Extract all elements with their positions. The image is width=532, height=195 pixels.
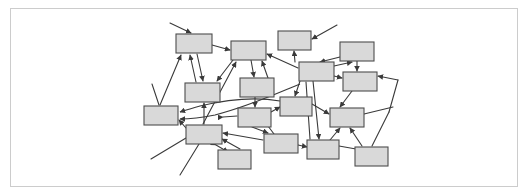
edge-stub-right-lower	[372, 112, 389, 146]
edge-n5-n6-bidirectional	[334, 76, 342, 78]
edge-n12-to-n11	[223, 116, 237, 117]
edge-n6-to-n13	[340, 91, 352, 107]
figure-root	[0, 0, 532, 195]
edge-n16-to-n13	[330, 128, 340, 140]
node-n9[interactable]	[144, 106, 178, 125]
edge-external-to-n1	[170, 23, 191, 33]
node-n17[interactable]	[355, 147, 388, 166]
edge-n16-to-n17	[339, 146, 356, 149]
edge-n12-to-n9	[179, 120, 186, 128]
edge-n15-to-n12-return	[222, 139, 240, 149]
edge-stub-n12-lower-left	[151, 138, 186, 159]
edge-stub-n12-lower	[180, 144, 199, 175]
node-n13[interactable]	[330, 108, 364, 127]
edge-n14-to-n12	[223, 133, 263, 140]
edge-n4-to-n5	[320, 57, 340, 62]
node-n6[interactable]	[343, 72, 377, 91]
edge-n10-to-n13	[312, 104, 329, 114]
edge-n8-to-n2	[262, 61, 268, 78]
edge-n1-to-n7	[197, 54, 203, 81]
node-n3[interactable]	[278, 31, 311, 50]
edge-n11-to-n10	[271, 107, 280, 112]
node-n11[interactable]	[238, 108, 271, 127]
edge-n5-to-n10	[295, 81, 300, 96]
edge-external-to-n6	[378, 76, 398, 80]
node-n8[interactable]	[240, 78, 274, 97]
node-n15[interactable]	[218, 150, 251, 169]
edge-n5-to-n16	[313, 81, 319, 139]
edge-n5-to-n2	[267, 54, 298, 68]
edge-n5-to-n3	[294, 51, 295, 62]
node-n10[interactable]	[280, 97, 312, 116]
node-n5[interactable]	[299, 62, 334, 81]
edge-n11-to-n14	[252, 127, 268, 133]
edge-n17-to-n13	[350, 128, 362, 146]
edge-n2-to-n8	[251, 60, 254, 77]
node-n14[interactable]	[264, 134, 298, 153]
edge-n2-to-n7	[217, 60, 233, 81]
edge-stub-n9-left	[152, 84, 159, 105]
node-n16[interactable]	[307, 140, 339, 159]
node-n7[interactable]	[185, 83, 220, 102]
edge-external-to-n3	[312, 25, 337, 39]
edge-n14-n16-bidirectional	[298, 145, 307, 147]
node-n4[interactable]	[340, 42, 374, 61]
node-n2[interactable]	[231, 41, 266, 60]
node-n1[interactable]	[176, 34, 212, 53]
edge-n7-to-n1	[190, 55, 196, 82]
edge-n5-to-n4	[334, 62, 352, 66]
edge-n9-to-n1	[160, 55, 181, 105]
node-n12[interactable]	[186, 125, 222, 144]
node-link-diagram	[0, 0, 532, 195]
edge-n1-to-n2	[212, 45, 230, 50]
